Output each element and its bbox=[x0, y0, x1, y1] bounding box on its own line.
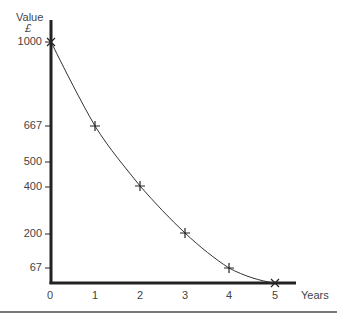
x-tick-label: 0 bbox=[47, 289, 53, 301]
y-axis-unit: £ bbox=[25, 22, 31, 34]
x-tick-label: 3 bbox=[182, 289, 188, 301]
value-curve bbox=[51, 42, 275, 283]
y-tick-label: 400 bbox=[2, 180, 42, 192]
y-tick-label: 667 bbox=[2, 119, 42, 131]
marker-x4 bbox=[224, 263, 234, 273]
y-tick-label: 67 bbox=[2, 261, 42, 273]
chart-plot bbox=[0, 0, 337, 315]
y-tick-label: 1000 bbox=[2, 35, 42, 47]
x-tick-label: 4 bbox=[226, 289, 232, 301]
data-markers bbox=[47, 38, 279, 287]
y-tick-label: 500 bbox=[2, 155, 42, 167]
x-tick-label: 5 bbox=[272, 289, 278, 301]
marker-x1 bbox=[90, 121, 100, 131]
x-axis-title: Years bbox=[301, 289, 329, 301]
x-tick-label: 2 bbox=[137, 289, 143, 301]
y-tick-label: 200 bbox=[2, 227, 42, 239]
x-tick-label: 1 bbox=[92, 289, 98, 301]
bottom-divider bbox=[0, 311, 337, 313]
